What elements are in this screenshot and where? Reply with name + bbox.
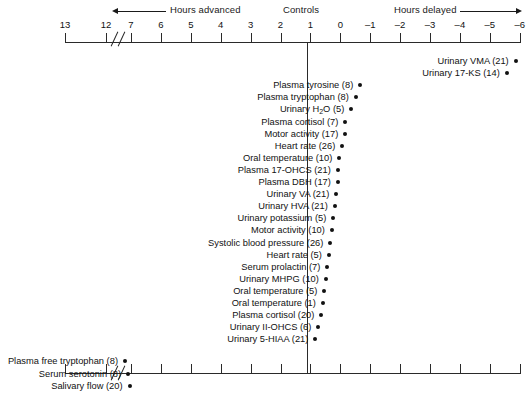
data-point-label: Urinary 17-KS (14) [422,67,500,79]
data-point-dot [354,95,358,99]
data-point-row: Urinary 5-HIAA (21) [0,333,317,345]
tick-label-15: –6 [505,19,527,30]
data-point-row: Urinary II-OHCS (6) [0,321,320,333]
advanced-arrow-line [118,11,166,12]
tick-top-6 [251,33,252,43]
tick-label-14: –5 [475,19,505,30]
tick-top-4 [191,33,192,43]
data-point-row: Urinary 17-KS (14) [0,67,509,79]
data-point-dot [336,180,340,184]
data-point-label: Heart rate (5) [267,249,322,261]
tick-bottom-10 [370,364,371,374]
data-point-row: Heart rate (5) [0,249,331,261]
tick-top-0 [65,33,66,43]
hours-delayed-label: Hours delayed [394,4,457,15]
data-point-label: Urinary II-OHCS (6) [230,321,312,333]
tick-bottom-5 [221,364,222,374]
tick-bottom-11 [400,364,401,374]
data-point-label: Serum serotonin (8) [39,368,121,380]
data-point-label: Oral temperature (1) [232,297,316,309]
data-point-dot [337,156,341,160]
tick-label-11: –2 [385,19,415,30]
tick-label-6: 3 [236,19,266,30]
data-point-dot [313,337,317,341]
data-point-dot [325,265,329,269]
tick-label-4: 5 [176,19,206,30]
tick-label-12: –3 [415,19,445,30]
data-point-row: Urinary VA (21) [0,188,338,200]
data-point-label: Urinary VMA (21) [437,55,508,67]
data-point-row: Plasma tryptophan (8) [0,91,358,103]
data-point-dot [328,241,332,245]
data-point-label: Urinary MHPG (10) [239,273,319,285]
data-point-row: Salivary flow (20) [0,380,132,392]
bottom-axis-line [65,373,520,374]
tick-label-7: 2 [266,19,296,30]
data-point-row: Oral temperature (10) [0,152,341,164]
data-point-dot [336,168,340,172]
data-point-row: Plasma DBH (17) [0,176,340,188]
data-point-dot [321,301,325,305]
data-point-row: Motor activity (17) [0,128,347,140]
tick-top-12 [430,33,431,43]
data-point-label: Oral temperature (10) [243,152,332,164]
data-point-dot [123,359,127,363]
tick-bottom-7 [281,364,282,374]
controls-label: Controls [283,4,319,15]
data-point-row: Systolic blood pressure (26) [0,237,332,249]
tick-top-1 [106,33,107,43]
phase-shift-chart: Hours advanced Controls Hours delayed 13… [0,0,527,405]
data-point-dot [324,277,328,281]
hours-advanced-label: Hours advanced [170,4,241,15]
tick-label-5: 4 [206,19,236,30]
tick-top-14 [490,33,491,43]
tick-top-3 [161,33,162,43]
data-point-label: Systolic blood pressure (26) [208,237,323,249]
data-point-row: Plasma tyrosine (8) [0,79,362,91]
tick-bottom-8 [310,364,311,374]
tick-bottom-3 [161,364,162,374]
tick-label-0: 13 [50,19,80,30]
tick-top-15 [520,33,521,43]
tick-label-3: 6 [146,19,176,30]
data-point-label: Plasma cortisol (20) [232,309,314,321]
data-point-row: Urinary VMA (21) [0,55,518,67]
tick-top-2 [131,33,132,43]
delayed-arrow-head-icon [516,8,522,14]
axis-break-mark-top-2 [118,32,126,47]
data-point-row: Urinary H2O (5) [0,103,353,115]
data-point-dot [340,144,344,148]
tick-top-7 [281,33,282,43]
tick-top-5 [221,33,222,43]
data-point-label: Plasma cortisol (7) [261,116,338,128]
data-point-label: Salivary flow (20) [51,380,122,392]
tick-bottom-6 [251,364,252,374]
data-point-row: Plasma free tryptophan (8) [0,355,127,367]
top-axis-line [65,42,520,43]
tick-bottom-14 [490,364,491,374]
data-point-row: Urinary MHPG (10) [0,273,328,285]
data-point-row: Plasma cortisol (20) [0,309,323,321]
tick-label-13: –4 [445,19,475,30]
data-point-dot [334,192,338,196]
data-point-row: Motor activity (10) [0,224,334,236]
data-point-dot [333,204,337,208]
data-point-dot [322,289,326,293]
data-point-dot [316,325,320,329]
tick-label-9: 0 [325,19,355,30]
data-point-row: Urinary HVA (21) [0,200,337,212]
tick-top-13 [460,33,461,43]
delayed-arrow-line [460,11,516,12]
data-point-row: Serum prolactin (7) [0,261,329,273]
data-point-dot [128,384,132,388]
tick-bottom-12 [430,364,431,374]
tick-top-10 [370,33,371,43]
data-point-row: Heart rate (26) [0,140,344,152]
data-point-row: Urinary potassium (5) [0,212,335,224]
tick-bottom-15 [520,364,521,374]
data-point-dot [327,253,331,257]
tick-label-10: –1 [355,19,385,30]
data-point-dot [330,228,334,232]
data-point-dot [343,120,347,124]
data-point-dot [505,71,509,75]
